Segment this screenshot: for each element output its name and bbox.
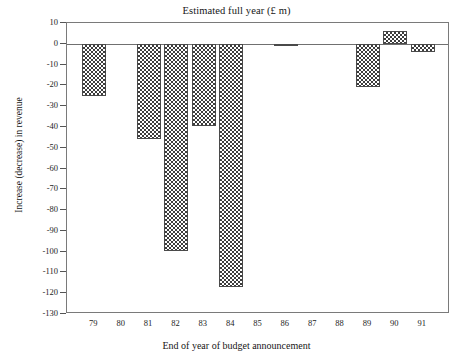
x-axis-tick-label: 88 xyxy=(325,318,355,328)
bar-86 xyxy=(274,44,298,47)
y-axis-tick-label-text: -10 xyxy=(18,60,58,69)
y-axis-tick-label: 10 xyxy=(0,18,58,27)
y-axis-tick-label-text: 10 xyxy=(18,18,58,27)
y-axis-tick xyxy=(60,251,66,252)
y-axis-tick-label: -130 xyxy=(0,309,58,318)
x-axis-tick-label: 86 xyxy=(270,318,300,328)
y-axis-tick-label-text: -70 xyxy=(18,184,58,193)
y-axis-tick xyxy=(60,271,66,272)
y-axis-tick-label-text: -120 xyxy=(18,288,58,297)
y-axis-tick xyxy=(60,168,66,169)
y-axis-tick xyxy=(60,22,66,23)
y-axis-tick-label-text: -50 xyxy=(18,143,58,152)
y-axis-tick xyxy=(60,147,66,148)
bar-89 xyxy=(356,44,380,88)
y-axis-tick-label-text: -30 xyxy=(18,101,58,110)
y-axis-tick-label-text: -100 xyxy=(18,247,58,256)
plot-inner xyxy=(67,23,448,312)
x-axis-tick-label: 81 xyxy=(133,318,163,328)
bar-82 xyxy=(164,44,188,251)
y-axis-tick xyxy=(60,105,66,106)
x-axis-tick-label: 91 xyxy=(407,318,437,328)
y-axis-tick-label: -70 xyxy=(0,184,58,193)
y-axis-tick xyxy=(60,64,66,65)
y-axis-tick-label: -60 xyxy=(0,164,58,173)
y-axis-tick-label: -100 xyxy=(0,247,58,256)
x-axis-tick-label: 83 xyxy=(188,318,218,328)
x-axis-tick-label: 80 xyxy=(106,318,136,328)
y-axis-tick xyxy=(60,84,66,85)
y-axis-tick-label-text: -110 xyxy=(18,267,58,276)
y-axis-tick-label-text: -90 xyxy=(18,226,58,235)
y-axis-tick xyxy=(60,230,66,231)
x-axis-tick-label: 85 xyxy=(243,318,273,328)
y-axis-tick-label: -30 xyxy=(0,101,58,110)
y-axis-tick xyxy=(60,43,66,44)
y-axis-tick-label-text: -20 xyxy=(18,80,58,89)
y-axis-tick xyxy=(60,188,66,189)
y-axis-title: Increase (decrease) in revenue xyxy=(14,40,24,270)
y-axis-tick-label-text: 0 xyxy=(18,39,58,48)
y-axis-tick xyxy=(60,209,66,210)
x-axis-tick-label: 90 xyxy=(379,318,409,328)
bar-91 xyxy=(411,44,435,52)
y-axis-tick-label: -10 xyxy=(0,60,58,69)
y-axis-tick-label-text: -60 xyxy=(18,164,58,173)
y-axis-tick-label: -90 xyxy=(0,226,58,235)
bar-84 xyxy=(219,44,243,287)
bar-79 xyxy=(82,44,106,96)
x-axis-tick-label: 79 xyxy=(78,318,108,328)
y-axis-tick-label-text: -80 xyxy=(18,205,58,214)
chart-title: Estimated full year (£ m) xyxy=(0,5,473,16)
x-axis-tick-label: 84 xyxy=(215,318,245,328)
y-axis-tick-label-text: -40 xyxy=(18,122,58,131)
bar-90 xyxy=(383,31,407,43)
y-axis-tick-label: -120 xyxy=(0,288,58,297)
y-axis-tick-label-text: -130 xyxy=(18,309,58,318)
zero-baseline xyxy=(67,44,448,45)
bar-81 xyxy=(137,44,161,140)
x-axis-tick-label: 89 xyxy=(352,318,382,328)
y-axis-tick xyxy=(60,292,66,293)
bar-83 xyxy=(192,44,216,126)
chart-container: Estimated full year (£ m) Increase (decr… xyxy=(0,0,473,361)
y-axis-tick xyxy=(60,126,66,127)
y-axis-tick-label: 0 xyxy=(0,39,58,48)
y-axis-tick-label: -40 xyxy=(0,122,58,131)
plot-area xyxy=(66,22,449,313)
x-axis-tick-label: 82 xyxy=(160,318,190,328)
x-axis-title: End of year of budget announcement xyxy=(0,340,473,351)
y-axis-tick xyxy=(60,313,66,314)
y-axis-tick-label: -50 xyxy=(0,143,58,152)
y-axis-tick-label: -80 xyxy=(0,205,58,214)
y-axis-tick-label: -110 xyxy=(0,267,58,276)
y-axis-tick-label: -20 xyxy=(0,80,58,89)
x-axis-tick-label: 87 xyxy=(297,318,327,328)
